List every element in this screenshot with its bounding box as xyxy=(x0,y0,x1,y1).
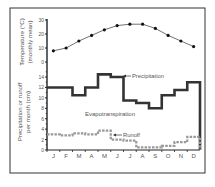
svg-text:Precipitation or runoff: Precipitation or runoff xyxy=(16,82,23,141)
month-label: J xyxy=(116,153,119,159)
temperature-point xyxy=(192,45,195,48)
month-label: S xyxy=(153,153,157,159)
evapotranspiration-label: Evapotranspiration xyxy=(85,111,135,117)
month-label: M xyxy=(76,153,81,159)
month-axis: JFMAMJJASOND xyxy=(47,150,200,159)
month-label: N xyxy=(179,153,183,159)
month-label: F xyxy=(64,153,68,159)
temperature-point xyxy=(116,24,119,27)
month-label: D xyxy=(191,153,196,159)
y-axis-titles: Temperature (°C)(monthly mean)Precipitat… xyxy=(16,18,33,141)
precip-tick-label: 0 xyxy=(41,147,44,153)
temperature-point xyxy=(90,34,93,37)
temperature-point xyxy=(167,34,170,37)
precip-tick-label: 6 xyxy=(41,116,44,122)
temperature-point xyxy=(65,46,68,49)
month-label: A xyxy=(141,153,145,159)
precip-tick-label: 12 xyxy=(38,84,44,90)
month-label: A xyxy=(90,153,94,159)
temperature-point xyxy=(154,27,157,30)
precip-tick-label: 8 xyxy=(41,105,44,111)
temperature-point xyxy=(179,39,182,42)
svg-text:Temperature (°C): Temperature (°C) xyxy=(18,18,25,66)
precipitation-axis: 02468101214 xyxy=(38,66,47,153)
temperature-point xyxy=(103,28,106,31)
temperature-line xyxy=(52,23,195,53)
temperature-tick-label: 20 xyxy=(38,31,44,37)
precip-tick-label: 14 xyxy=(38,74,44,80)
month-label: M xyxy=(102,153,107,159)
svg-text:(monthly mean): (monthly mean) xyxy=(26,21,33,64)
month-label: O xyxy=(166,153,171,159)
temperature-axis-title: Temperature (°C)(monthly mean) xyxy=(18,18,33,66)
temperature-point xyxy=(77,39,80,42)
precipitation-label: Precipitation xyxy=(132,73,164,79)
precip-tick-label: 10 xyxy=(38,95,44,101)
temperature-point xyxy=(52,49,55,52)
climate-chart: Temperature (°C)(monthly mean)Precipitat… xyxy=(0,0,215,187)
temperature-point xyxy=(141,23,144,26)
runoff-label: Runoff xyxy=(123,132,140,138)
temperature-tick-label: 0 xyxy=(41,59,44,65)
precip-tick-label: 2 xyxy=(41,137,44,143)
temperature-axis: 0102030 xyxy=(38,17,47,66)
month-label: J xyxy=(128,153,131,159)
svg-text:per month (cm): per month (cm) xyxy=(24,91,31,133)
precip-axis-title: Precipitation or runoffper month (cm) xyxy=(16,82,31,141)
temperature-tick-label: 10 xyxy=(38,45,44,51)
month-label: J xyxy=(52,153,55,159)
temperature-point xyxy=(128,23,131,26)
temperature-tick-label: 30 xyxy=(38,17,44,23)
precip-tick-label: 4 xyxy=(41,126,44,132)
